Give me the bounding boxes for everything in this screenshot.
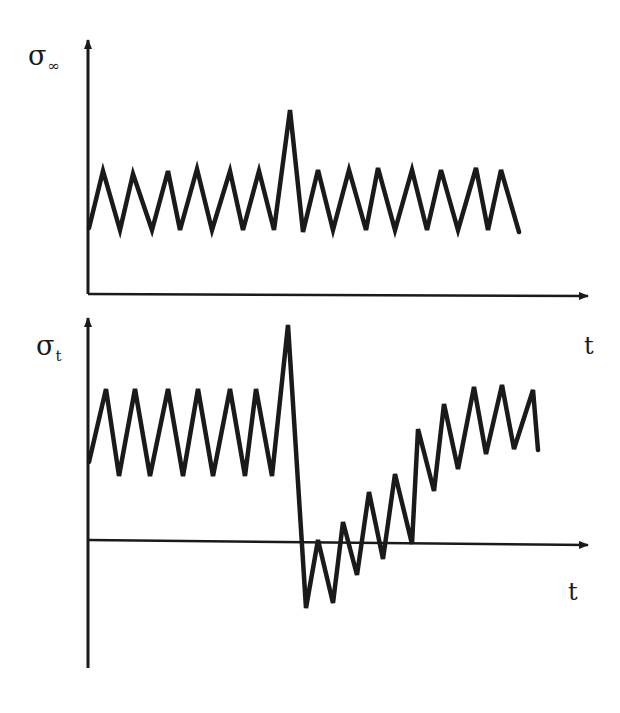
top-x-axis-label: t bbox=[584, 332, 594, 360]
bottom-sigma-subscript: t bbox=[55, 347, 61, 365]
bottom-y-axis-label: σt bbox=[36, 330, 60, 361]
top-sigma-symbol: σ bbox=[28, 40, 46, 71]
bottom-stress-signal bbox=[89, 325, 538, 608]
top-plot bbox=[88, 40, 588, 296]
bottom-x-axis-label: t bbox=[568, 578, 578, 606]
bottom-sigma-symbol: σ bbox=[36, 330, 54, 361]
top-stress-signal bbox=[89, 110, 519, 232]
top-sigma-subscript: ∞ bbox=[47, 57, 60, 75]
top-x-axis bbox=[88, 294, 588, 296]
stress-history-diagram bbox=[0, 0, 620, 713]
top-y-axis-label: σ∞ bbox=[28, 40, 59, 71]
bottom-plot bbox=[88, 318, 588, 668]
